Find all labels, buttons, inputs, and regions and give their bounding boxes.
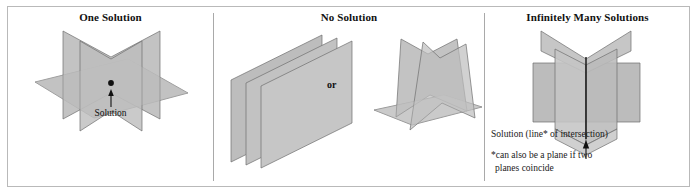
no-solution-diagram <box>214 7 484 187</box>
solutions-figure: One Solution Solution No Solution <box>0 0 697 194</box>
line-of-intersection-caption: Solution (line* of intersection) <box>491 129 608 141</box>
footnote-line-1: *can also be a plane if two <box>491 150 592 160</box>
panel-one-solution: One Solution Solution <box>8 7 213 187</box>
panel-no-solution: No Solution or <box>214 7 484 187</box>
footnote-line-2: planes coincide <box>491 162 592 175</box>
panel-infinitely-many-solutions: Infinitely Many Solutions Solution (line… <box>485 7 690 187</box>
or-connector-label: or <box>327 79 336 90</box>
solution-point-dot <box>108 80 114 86</box>
one-solution-diagram <box>8 7 213 187</box>
solution-point-label: Solution <box>8 108 213 118</box>
footnote-caption: *can also be a plane if two planes coinc… <box>491 149 592 175</box>
